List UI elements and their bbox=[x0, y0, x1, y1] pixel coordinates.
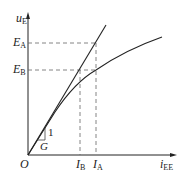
ea-label: EA bbox=[13, 36, 26, 50]
ib-label: IB bbox=[76, 158, 85, 172]
eb-label: EB bbox=[13, 63, 26, 77]
x-axis-arrow-icon bbox=[170, 153, 177, 157]
origin-label: O bbox=[20, 158, 29, 170]
slope-rise-label: 1 bbox=[48, 127, 54, 138]
diagram-canvas bbox=[0, 0, 187, 180]
slope-run-label: G bbox=[40, 141, 48, 152]
y-axis-label: uE bbox=[16, 12, 27, 26]
ia-label: IA bbox=[93, 158, 103, 172]
x-axis-label: iEE bbox=[160, 158, 173, 172]
